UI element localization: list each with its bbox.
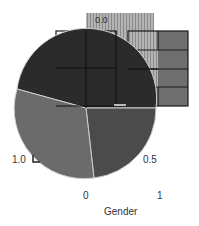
label-left: 1.0 bbox=[12, 155, 26, 165]
label-top: 0.0 bbox=[95, 16, 108, 25]
x-tick-0: 0 bbox=[83, 191, 89, 201]
x-tick-1: 1 bbox=[157, 191, 163, 201]
x-axis-label: Gender bbox=[104, 207, 137, 217]
chart-area: 0.0 1.0 0.5 0 1 Gender bbox=[0, 0, 199, 226]
pie-chart bbox=[0, 0, 199, 226]
pie-slice-mid bbox=[86, 108, 156, 178]
label-right: 0.5 bbox=[143, 155, 157, 165]
